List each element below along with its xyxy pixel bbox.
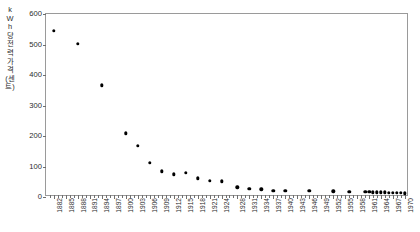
data-point	[196, 177, 199, 180]
data-point	[387, 191, 390, 194]
x-axis-tick-label: 1894	[103, 198, 110, 213]
x-axis-tick-label: 1949	[323, 198, 330, 213]
data-point	[136, 144, 139, 147]
x-axis-tick-label: 1961	[371, 198, 378, 213]
x-axis-tick-label: 1940	[287, 198, 294, 213]
y-axis-tick-mark	[43, 106, 46, 107]
x-axis-tick-label: 1885	[68, 198, 75, 213]
x-axis-tick-label: 1934	[263, 198, 270, 213]
x-axis-tick-label: 1900	[127, 198, 134, 213]
x-axis-tick-label: 1924	[223, 198, 230, 213]
x-axis-tick-label: 1928	[239, 198, 246, 213]
data-point	[371, 190, 374, 193]
x-axis-tick-label: 1882	[56, 198, 63, 213]
data-point	[76, 42, 79, 45]
x-axis-tick-label: 1912	[175, 198, 182, 213]
x-axis-tick-label: 1964	[383, 198, 390, 213]
x-axis-tick-label: 1943	[299, 198, 306, 213]
x-axis-tick-label: 1958	[359, 198, 366, 213]
x-axis-tick-label: 1897	[115, 198, 122, 213]
data-point	[395, 191, 398, 194]
y-axis-tick-label: 500	[20, 39, 42, 48]
x-axis-tick-label: 1906	[151, 198, 158, 213]
x-axis-tick-label: 1909	[163, 198, 170, 213]
x-axis-tick-label: 1967	[395, 198, 402, 213]
x-axis-tick-label: 1891	[91, 198, 98, 213]
y-axis-tick-label: 300	[20, 100, 42, 109]
data-point	[220, 180, 223, 183]
data-point	[375, 190, 378, 193]
x-axis-tick-label: 1946	[311, 198, 318, 213]
y-axis-tick-mark	[43, 14, 46, 15]
data-point	[284, 189, 287, 192]
data-point	[124, 132, 127, 135]
x-axis-tick-label: 1931	[251, 198, 258, 213]
x-axis-tick-label: 1937	[275, 198, 282, 213]
data-point	[148, 161, 151, 164]
data-point	[52, 29, 55, 32]
data-point	[308, 189, 311, 192]
data-point	[399, 191, 402, 194]
data-point	[383, 191, 386, 194]
data-point	[403, 192, 406, 195]
data-point	[391, 191, 394, 194]
plot-area	[45, 13, 408, 196]
data-point	[363, 190, 366, 193]
y-axis-tick-mark	[43, 136, 46, 137]
y-axis-tick-labels: 0100200300400500600	[16, 0, 42, 232]
data-point	[100, 84, 103, 87]
x-axis-tick-label: 1955	[347, 198, 354, 213]
data-point	[332, 190, 335, 193]
x-axis-tick-label: 1952	[335, 198, 342, 213]
y-axis-tick-label: 100	[20, 161, 42, 170]
data-point	[367, 190, 370, 193]
y-axis-tick-mark	[43, 75, 46, 76]
y-axis-tick-mark	[43, 45, 46, 46]
data-point	[208, 179, 211, 182]
y-axis-tick-label: 600	[20, 9, 42, 18]
data-point	[272, 189, 275, 192]
data-point	[248, 187, 251, 190]
x-axis-tick-label: 1915	[187, 198, 194, 213]
x-axis-tick-label: 1918	[199, 198, 206, 213]
x-axis-tick-label: 1903	[139, 198, 146, 213]
data-point	[260, 188, 263, 191]
data-point	[379, 191, 382, 194]
x-axis-tick-label: 1921	[211, 198, 218, 213]
data-point	[236, 186, 239, 189]
x-axis-tick-labels: 1882188518881891189418971900190319061909…	[45, 198, 408, 232]
y-axis-tick-mark	[43, 167, 46, 168]
x-axis-tick-label: 1970	[407, 198, 414, 213]
x-axis-tick-label: 1888	[80, 198, 87, 213]
data-point	[160, 170, 163, 173]
y-axis-tick-label: 200	[20, 131, 42, 140]
data-point	[347, 190, 350, 193]
y-axis-tick-label: 400	[20, 70, 42, 79]
y-axis-tick-label: 0	[20, 192, 42, 201]
data-point	[172, 173, 175, 176]
data-point	[184, 171, 187, 174]
chart-container: kWh당전력가격(센트) 0100200300400500600 1882188…	[0, 0, 420, 232]
